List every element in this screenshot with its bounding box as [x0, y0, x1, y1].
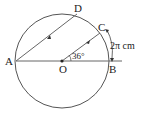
label-B: B [109, 64, 116, 75]
angle-arc [69, 55, 71, 61]
angle-label: 36° [72, 52, 85, 61]
arc-length-label: 2π cm [110, 41, 135, 51]
circle-diagram [0, 0, 142, 120]
label-C: C [98, 22, 105, 33]
label-A: A [5, 56, 13, 67]
label-O: O [59, 64, 67, 75]
label-D: D [74, 3, 82, 14]
chord-AD [16, 14, 77, 61]
